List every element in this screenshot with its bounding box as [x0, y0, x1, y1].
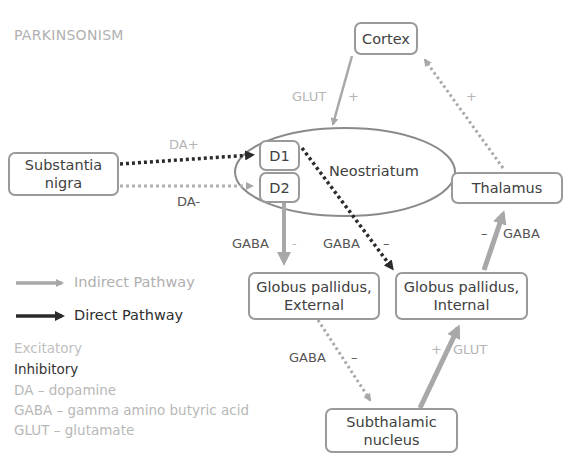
diagram-title: PARKINSONISM	[14, 27, 124, 43]
label-cortex-sign: +	[348, 89, 359, 104]
legend-indirect-label: Indirect Pathway	[74, 274, 195, 290]
gpi-to-thalamus-arrow	[484, 214, 503, 270]
node-d1-label: D1	[269, 147, 289, 165]
label-gpe-stn-sign: –	[351, 350, 358, 365]
node-sn-line2: nigra	[45, 174, 82, 192]
node-sn-line1: Substantia	[25, 156, 103, 174]
sn-to-d1-arrow	[120, 155, 252, 164]
node-substantia-nigra: Substantia nigra	[8, 152, 119, 196]
legend-abbrev-glut: GLUT – glutamate	[14, 422, 134, 438]
node-neostriatum-label: Neostriatum	[329, 163, 419, 179]
label-d1-gpi-gaba: GABA	[323, 236, 360, 251]
node-cortex: Cortex	[354, 22, 418, 55]
label-d2-gpe-sign: -	[292, 236, 297, 251]
label-sn-d1-da: DA+	[169, 137, 199, 152]
node-d1: D1	[259, 140, 300, 171]
node-gp-external: Globus pallidus, External	[248, 272, 380, 320]
node-gp-internal: Globus pallidus, Internal	[395, 272, 528, 320]
legend-abbrev-da: DA – dopamine	[14, 382, 116, 398]
node-gpi-line1: Globus pallidus,	[404, 278, 519, 296]
node-thalamus-label: Thalamus	[472, 179, 543, 197]
legend-inhibitory: Inhibitory	[14, 361, 78, 377]
label-gpi-thalamus-gaba: GABA	[503, 226, 540, 241]
legend-abbrev-gaba: GABA – gamma amino butyric acid	[14, 402, 249, 418]
label-gpe-stn-gaba: GABA	[289, 350, 326, 365]
label-sn-d2-da: DA-	[177, 194, 200, 209]
thalamus-to-cortex-arrow	[425, 60, 503, 168]
node-d2: D2	[259, 172, 300, 203]
node-thalamus: Thalamus	[451, 172, 563, 204]
stn-to-gpi-arrow	[420, 328, 458, 408]
node-stn-line1: Subthalamic	[346, 413, 436, 431]
node-gpe-line2: External	[284, 296, 344, 314]
label-stn-gpi-sign: +	[431, 342, 442, 357]
node-gpe-line1: Globus pallidus,	[256, 278, 371, 296]
node-gpi-line2: Internal	[434, 296, 490, 314]
node-d2-label: D2	[269, 179, 289, 197]
node-stn-line2: nucleus	[363, 431, 419, 449]
legend-direct-label: Direct Pathway	[74, 307, 183, 323]
label-cortex-glut: GLUT	[292, 89, 326, 104]
node-cortex-label: Cortex	[362, 30, 410, 48]
node-subthalamic-nucleus: Subthalamic nucleus	[325, 408, 458, 453]
label-stn-gpi-glut: GLUT	[453, 342, 487, 357]
label-gpi-thalamus-sign: –	[481, 226, 488, 241]
label-d1-gpi-sign: –	[383, 236, 390, 251]
label-thalamus-cortex-sign: +	[466, 89, 477, 104]
legend-excitatory: Excitatory	[14, 340, 82, 356]
label-d2-gpe-gaba: GABA	[232, 236, 269, 251]
